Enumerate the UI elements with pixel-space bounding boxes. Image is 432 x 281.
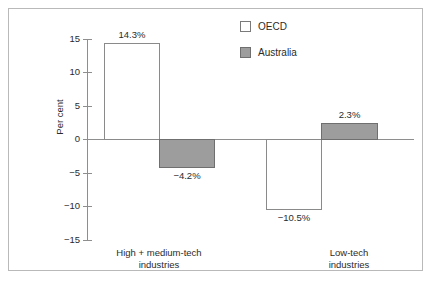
y-tick-mark-10 <box>83 72 92 73</box>
y-tick-mark-15 <box>83 39 92 40</box>
category-label-line-1: Low-tech <box>294 247 404 259</box>
y-tick-label-neg5: −5 <box>40 168 80 178</box>
legend-entry-australia[interactable]: Australia <box>240 45 360 59</box>
y-tick-mark-5 <box>83 106 92 107</box>
bar-oecd-low-tech[interactable] <box>266 139 322 210</box>
category-label-line-1: High + medium-tech <box>99 247 219 259</box>
y-tick-mark-neg15 <box>83 240 92 241</box>
y-tick-mark-neg10 <box>83 206 92 207</box>
y-tick-label-neg15: −15 <box>40 235 80 245</box>
legend-label-australia: Australia <box>258 47 297 58</box>
y-tick-mark-neg5 <box>83 173 92 174</box>
y-tick-label-neg10: −10 <box>40 201 80 211</box>
bar-label-australia-low-tech: 2.3% <box>321 109 378 120</box>
chart-legend: OECD Australia <box>240 19 360 71</box>
bar-label-oecd-high-medium-tech: 14.3% <box>104 29 160 40</box>
bar-oecd-high-medium-tech[interactable] <box>104 43 160 140</box>
legend-swatch-filled-icon <box>240 47 251 58</box>
legend-swatch-unfilled-icon <box>240 21 251 32</box>
y-tick-label-10: 10 <box>40 67 80 77</box>
bar-label-oecd-low-tech: −10.5% <box>261 212 327 223</box>
bar-australia-high-medium-tech[interactable] <box>159 139 215 168</box>
y-axis-title: Per cent <box>55 87 65 147</box>
category-label-line-2: industries <box>99 259 219 271</box>
chart-figure-frame: 15 10 5 0 −5 −10 −15 Per cent 14.3% −4.2… <box>8 8 423 271</box>
legend-entry-oecd[interactable]: OECD <box>240 19 360 33</box>
category-label-high-medium-tech: High + medium-tech industries <box>99 247 219 270</box>
bar-australia-low-tech[interactable] <box>321 123 378 140</box>
legend-label-oecd: OECD <box>258 21 287 32</box>
category-label-line-2: industries <box>294 259 404 271</box>
bar-label-australia-high-medium-tech: −4.2% <box>159 170 215 181</box>
plot-area: 15 10 5 0 −5 −10 −15 Per cent 14.3% −4.2… <box>9 9 424 272</box>
category-label-low-tech: Low-tech industries <box>294 247 404 270</box>
y-tick-label-15: 15 <box>40 34 80 44</box>
